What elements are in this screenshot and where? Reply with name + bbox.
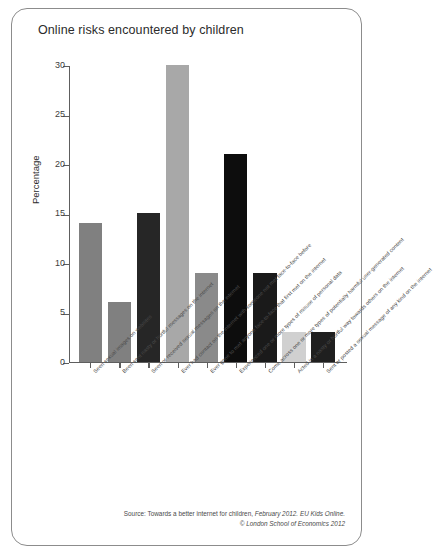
source-line-2: © London School of Economics 2012 [124, 519, 345, 529]
page-title: Online risks encountered by children [38, 23, 244, 37]
x-axis-tick-mark [236, 363, 237, 368]
chart-plot-area: 051015202530 [69, 66, 366, 363]
y-axis-tick-label: 10 [55, 258, 65, 268]
y-axis-tick-label: 5 [60, 307, 65, 317]
x-axis-tick-mark [90, 363, 91, 368]
bar [79, 223, 102, 362]
y-axis-tick-label: 30 [55, 60, 65, 70]
x-axis-tick-mark [323, 363, 324, 368]
y-axis-label: Percentage [30, 155, 41, 204]
bar [253, 273, 276, 362]
bar [108, 302, 131, 361]
y-axis-tick-label: 0 [60, 357, 65, 367]
y-axis-tick-label: 15 [55, 208, 65, 218]
source-note: Source: Towards a better internet for ch… [124, 509, 345, 529]
y-axis-tick-label: 25 [55, 109, 65, 119]
bar [195, 273, 218, 362]
bar [137, 213, 160, 362]
y-axis-tick-label: 20 [55, 159, 65, 169]
x-axis-line [69, 362, 347, 363]
bar [224, 154, 247, 362]
bar [282, 332, 305, 362]
x-axis-tick-mark [178, 363, 179, 368]
x-axis-tick-mark [265, 363, 266, 368]
bar [311, 332, 334, 362]
y-axis-line [69, 66, 70, 363]
source-emphasis: February 2012. EU Kids Online. [255, 510, 345, 517]
figure-card: Online risks encountered by children 051… [11, 8, 362, 546]
source-prefix: Source: Towards a better internet for ch… [124, 510, 253, 517]
source-line-1: Source: Towards a better internet for ch… [124, 509, 345, 519]
x-axis-tick-mark [294, 363, 295, 368]
x-axis-tick-mark [148, 363, 149, 368]
x-axis-tick-mark [207, 363, 208, 368]
x-axis-tick-mark [119, 363, 120, 368]
bar [166, 65, 189, 362]
